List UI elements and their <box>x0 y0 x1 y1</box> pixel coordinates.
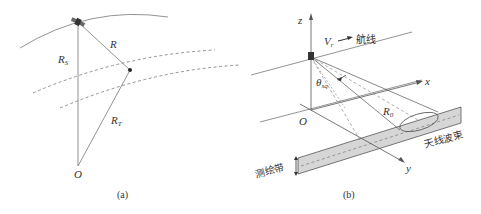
r0-label: R0 <box>382 105 394 119</box>
flight-line-label: 航线 <box>356 33 376 45</box>
y-axis-arrow-icon <box>398 157 405 163</box>
caption-a: (a) <box>117 189 128 201</box>
r-line <box>78 22 130 70</box>
x-axis-label: x <box>424 75 430 87</box>
satellite-icon-b <box>308 52 314 60</box>
caption-b: (b) <box>343 189 355 201</box>
nadir-dashed <box>311 57 360 140</box>
origin-label-b: O <box>299 115 307 127</box>
velocity-arrow-head-icon <box>347 36 353 40</box>
origin-label-a: O <box>74 168 82 180</box>
r-label: R <box>109 38 117 50</box>
panel-a: R RS RT O (a) <box>20 14 240 201</box>
y-axis-label: y <box>405 162 411 174</box>
rs-label: RS <box>57 53 69 67</box>
orbit-arc <box>20 14 168 48</box>
x-axis-arrow-icon <box>416 80 423 85</box>
swath-arrow-down-icon <box>294 172 298 176</box>
surface-curve-lower <box>60 65 240 108</box>
target-point-icon <box>128 68 132 72</box>
velocity-label: Vr <box>324 35 334 49</box>
swath-label: 测绘带 <box>253 161 285 180</box>
rt-line <box>78 72 129 166</box>
ground-line <box>260 80 422 122</box>
diagram-canvas: R RS RT O (a) <box>0 0 481 214</box>
flight-line <box>251 32 412 75</box>
z-axis-label: z <box>297 14 303 26</box>
squint-angle-label: θsq <box>316 76 328 90</box>
swath-arrow-up-icon <box>294 156 298 160</box>
beam-edge-near <box>311 57 400 130</box>
z-axis-arrow-icon <box>309 13 313 20</box>
rt-label: RT <box>110 114 123 128</box>
panel-b: z x y O Vr 航线 θsq R0 天线波束 测绘带 (b) <box>251 13 464 201</box>
